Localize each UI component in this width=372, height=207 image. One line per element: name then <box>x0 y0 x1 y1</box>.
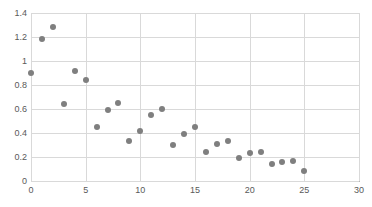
data-point <box>159 106 165 112</box>
x-tick-label: 30 <box>354 186 364 195</box>
data-point <box>269 161 275 167</box>
data-point <box>72 68 78 74</box>
data-point <box>225 138 231 144</box>
data-point <box>214 141 220 147</box>
y-tick-label: 0.4 <box>14 129 27 138</box>
data-point <box>115 100 121 106</box>
data-point <box>247 150 253 156</box>
data-point <box>126 138 132 144</box>
gridline-x-6 <box>359 13 360 181</box>
data-point <box>39 36 45 42</box>
data-point <box>148 112 154 118</box>
gridline-y-0 <box>31 181 359 182</box>
data-point <box>137 128 143 134</box>
data-point <box>290 158 296 164</box>
gridline-x-0 <box>31 13 32 181</box>
data-point <box>61 101 67 107</box>
data-point <box>94 124 100 130</box>
gridline-x-3 <box>195 13 196 181</box>
data-point <box>236 155 242 161</box>
data-point <box>279 159 285 165</box>
x-tick-label: 20 <box>245 186 255 195</box>
y-tick-label: 1.2 <box>14 33 27 42</box>
data-point <box>203 149 209 155</box>
data-point <box>170 142 176 148</box>
gridline-x-2 <box>140 13 141 181</box>
data-point <box>301 168 307 174</box>
y-tick-label: 1.4 <box>14 9 27 18</box>
x-tick-label: 0 <box>28 186 33 195</box>
x-tick-label: 5 <box>83 186 88 195</box>
data-point <box>258 149 264 155</box>
data-point <box>181 131 187 137</box>
gridline-x-1 <box>86 13 87 181</box>
y-tick-label: 1 <box>22 57 27 66</box>
data-point <box>192 124 198 130</box>
y-tick-label: 0 <box>22 177 27 186</box>
x-tick-label: 10 <box>135 186 145 195</box>
data-point <box>50 24 56 30</box>
plot-area <box>31 13 359 181</box>
scatter-chart: 00.20.40.60.811.21.4 051015202530 <box>0 0 372 207</box>
x-tick-label: 25 <box>299 186 309 195</box>
data-point <box>83 77 89 83</box>
x-tick-label: 15 <box>190 186 200 195</box>
y-tick-label: 0.8 <box>14 81 27 90</box>
data-point <box>28 70 34 76</box>
y-tick-label: 0.2 <box>14 153 27 162</box>
gridline-x-5 <box>304 13 305 181</box>
y-tick-label: 0.6 <box>14 105 27 114</box>
data-point <box>105 107 111 113</box>
